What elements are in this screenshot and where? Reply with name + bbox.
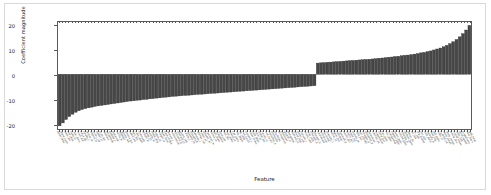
x-tick-mark-top (299, 21, 300, 23)
x-tick-mark-top (380, 21, 381, 23)
x-tick-mark-top (175, 21, 176, 23)
figure-panel: Coefficient magnitude 20 10 0 -10 -20 pe… (4, 3, 486, 190)
bar (220, 74, 223, 92)
bar (336, 62, 339, 75)
x-tick-mark-top (114, 21, 115, 23)
x-tick-mark-top (107, 21, 108, 23)
x-tick-mark-top (98, 21, 99, 23)
x-tick-mark-top (133, 21, 134, 23)
x-tick-mark-top (140, 21, 141, 23)
x-tick-mark-top (59, 21, 60, 23)
bar (187, 74, 190, 95)
bar (323, 63, 326, 75)
bar (226, 74, 229, 92)
x-tick-mark-top (162, 21, 163, 23)
bar (223, 74, 226, 92)
x-tick-mark-top (286, 21, 287, 23)
bar (291, 74, 294, 87)
x-tick-mark-top (201, 21, 202, 23)
bar (429, 51, 432, 74)
y-tick-label-neg20: -20 (0, 123, 15, 129)
x-tick-mark-top (347, 21, 348, 23)
bar (87, 74, 90, 108)
x-tick-mark-top (227, 21, 228, 23)
y-axis-title: Coefficient magnitude (20, 0, 26, 81)
bar (345, 61, 348, 74)
x-tick-mark-top (117, 21, 118, 23)
x-tick-mark-top (324, 21, 325, 23)
bar (300, 74, 303, 86)
x-tick-mark-top (305, 21, 306, 23)
x-tick-mark-top (182, 21, 183, 23)
x-tick-mark-top (470, 21, 471, 23)
x-tick-mark-top (101, 21, 102, 23)
x-tick-mark-top (179, 21, 180, 23)
bar (123, 74, 126, 102)
bar (339, 61, 342, 74)
x-tick-mark-top (383, 21, 384, 23)
x-tick-mark-top (367, 21, 368, 23)
bar (129, 74, 132, 101)
bar (342, 61, 345, 74)
bar (397, 56, 400, 74)
x-tick-mark-top (149, 21, 150, 23)
bar (181, 74, 184, 95)
x-tick-mark-top (302, 21, 303, 23)
x-tick-mark-top (386, 21, 387, 23)
bar (455, 40, 458, 75)
x-tick-mark-top (396, 21, 397, 23)
x-tick-mark-top (389, 21, 390, 23)
x-tick-mark-top (75, 21, 76, 23)
bar (210, 74, 213, 93)
bar (152, 74, 155, 98)
x-tick-mark-top (153, 21, 154, 23)
x-tick-mark-top (68, 21, 69, 23)
x-tick-mark-top (237, 21, 238, 23)
x-tick-mark-top (104, 21, 105, 23)
bar (284, 74, 287, 88)
bar (216, 74, 219, 93)
bar (136, 74, 139, 100)
bar (294, 74, 297, 87)
bar (184, 74, 187, 95)
bar (61, 74, 64, 123)
bar (194, 74, 197, 94)
bar (81, 74, 84, 109)
x-tick-mark-top (62, 21, 63, 23)
x-tick-mark-top (214, 21, 215, 23)
x-tick-mark-top (425, 21, 426, 23)
x-tick-mark-top (188, 21, 189, 23)
bar (361, 60, 364, 75)
bar (236, 74, 239, 91)
bar (258, 74, 261, 90)
bar (197, 74, 200, 94)
bar (442, 47, 445, 74)
x-tick-mark-top (111, 21, 112, 23)
bar (403, 55, 406, 74)
x-tick-mark-top (205, 21, 206, 23)
bar (271, 74, 274, 89)
bar (207, 74, 210, 93)
x-tick-mark-top (159, 21, 160, 23)
x-tick-mark-top (72, 21, 73, 23)
bar (132, 74, 135, 101)
bar (452, 42, 455, 75)
x-tick-mark-top (464, 21, 465, 23)
x-tick-mark-top (172, 21, 173, 23)
bar (426, 52, 429, 75)
bar (174, 74, 177, 96)
x-tick-mark-top (224, 21, 225, 23)
bar (168, 74, 171, 97)
bar (387, 57, 390, 74)
bar (242, 74, 245, 91)
y-tick-label-10: 10 (0, 48, 15, 54)
bar (307, 74, 310, 86)
x-tick-mark-top (279, 21, 280, 23)
bar (178, 74, 181, 96)
x-tick-mark-top (444, 21, 445, 23)
x-tick-mark-top (431, 21, 432, 23)
x-tick-mark-top (208, 21, 209, 23)
bar (58, 74, 61, 126)
x-tick-mark-top (457, 21, 458, 23)
x-tick-mark-top (91, 21, 92, 23)
